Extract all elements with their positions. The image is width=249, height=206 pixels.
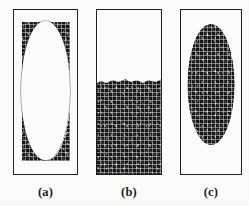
panel-c: [180, 9, 242, 175]
caption-a: (a): [13, 186, 78, 199]
caption-b: (b): [96, 186, 162, 199]
panel-b: [96, 9, 162, 175]
panel-border-c: [180, 9, 242, 175]
caption-c: (c): [180, 186, 242, 199]
panel-border-a: [13, 9, 78, 175]
panel-a: [13, 9, 78, 175]
panel-border-b: [96, 9, 162, 175]
figure-panel-group: (a) (b) (c): [0, 0, 249, 206]
